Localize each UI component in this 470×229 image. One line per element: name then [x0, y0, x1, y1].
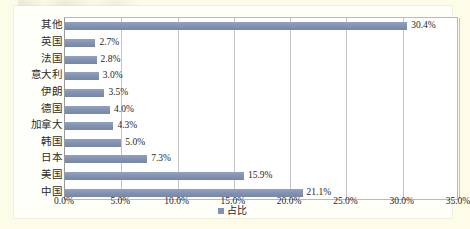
category-label: 日本	[16, 153, 62, 163]
bar[interactable]	[65, 56, 97, 64]
category-axis: 其他英国法国意大利伊朗德国加拿大韩国日本美国中国	[14, 17, 62, 200]
bar-value-label: 15.9%	[248, 171, 273, 180]
category-label: 英国	[16, 37, 62, 47]
bar[interactable]	[65, 39, 95, 47]
bar[interactable]	[65, 22, 407, 30]
chart-legend: 占比	[0, 206, 466, 216]
bar-value-label: 7.3%	[151, 154, 171, 163]
plot-area: 30.4%2.7%2.8%3.0%3.5%4.0%4.3%5.0%7.3%15.…	[64, 17, 458, 200]
category-label: 意大利	[16, 70, 62, 80]
bar[interactable]	[65, 139, 121, 147]
bar-value-label: 5.0%	[125, 138, 145, 147]
bar[interactable]	[65, 106, 110, 114]
bar[interactable]	[65, 172, 244, 180]
bar-value-label: 3.5%	[108, 88, 128, 97]
category-label: 韩国	[16, 137, 62, 147]
chart-card: 其他英国法国意大利伊朗德国加拿大韩国日本美国中国 30.4%2.7%2.8%3.…	[14, 6, 452, 218]
bar-value-label: 30.4%	[411, 21, 436, 30]
gridline	[403, 18, 404, 199]
bar[interactable]	[65, 155, 147, 163]
bar[interactable]	[65, 72, 99, 80]
bar-value-label: 4.3%	[117, 121, 137, 130]
bar-value-label: 4.0%	[114, 105, 134, 114]
category-label: 法国	[16, 54, 62, 64]
category-label: 加拿大	[16, 120, 62, 130]
bar[interactable]	[65, 122, 113, 130]
category-label: 伊朗	[16, 87, 62, 97]
bar-value-label: 2.7%	[99, 38, 119, 47]
bar-value-label: 3.0%	[103, 71, 123, 80]
bar-value-label: 2.8%	[101, 55, 121, 64]
gridline	[290, 18, 291, 199]
bar[interactable]	[65, 89, 104, 97]
category-label: 美国	[16, 170, 62, 180]
legend-swatch-icon	[218, 208, 224, 214]
gridline	[346, 18, 347, 199]
gridline	[459, 18, 460, 199]
category-label: 其他	[16, 20, 62, 30]
category-label: 德国	[16, 104, 62, 114]
legend-label: 占比	[227, 206, 248, 216]
